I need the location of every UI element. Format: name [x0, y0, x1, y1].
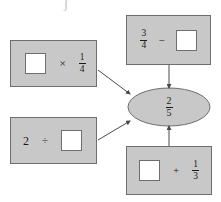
operand-number: 2: [23, 135, 29, 147]
diagram-canvas: ʃ 2 5 × 1: [0, 0, 221, 202]
expression: 2 ÷: [11, 118, 96, 163]
arrow-multiplication-to-center: [98, 70, 130, 94]
multiplication-expression-box[interactable]: × 1 4: [10, 40, 97, 87]
answer-blank-slot[interactable]: [176, 30, 197, 51]
answer-blank-slot[interactable]: [139, 160, 160, 181]
expression: × 1 4: [11, 41, 96, 86]
plus-sign: +: [173, 165, 179, 176]
fraction-three-fourths: 3 4: [140, 29, 147, 51]
answer-blank-slot[interactable]: [61, 130, 82, 151]
center-ellipse: [128, 88, 210, 126]
answer-blank-slot[interactable]: [25, 53, 46, 74]
subtraction-expression-box[interactable]: 3 4 −: [126, 15, 211, 65]
multiplication-sign: ×: [59, 58, 65, 69]
division-expression-box[interactable]: 2 ÷: [10, 117, 97, 164]
minus-sign: −: [158, 35, 164, 46]
fraction-one-fourth: 1 4: [79, 53, 86, 75]
fraction-one-third: 1 3: [192, 160, 199, 182]
arrow-division-to-center: [98, 121, 130, 140]
expression: 3 4 −: [127, 16, 210, 64]
addition-expression-box[interactable]: + 1 3: [126, 146, 212, 195]
expression: + 1 3: [127, 147, 211, 194]
division-sign: ÷: [42, 135, 48, 146]
